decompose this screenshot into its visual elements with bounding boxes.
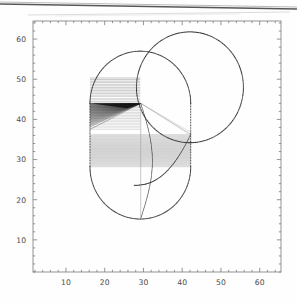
x-axis-tick-labels: 102030405060 (61, 278, 265, 287)
y-tick-label: 20 (16, 196, 26, 205)
big-circle (136, 31, 244, 143)
figure-content (89, 31, 244, 219)
curve-outlines (89, 31, 244, 219)
x-tick-label: 10 (61, 278, 71, 287)
upper-fan-lines (90, 103, 141, 129)
x-tick-label: 40 (177, 278, 187, 287)
y-axis-tick-labels: 102030405060 (16, 35, 26, 245)
x-tick-label: 30 (139, 278, 149, 287)
y-tick-label: 30 (16, 155, 26, 164)
x-tick-label: 20 (100, 278, 110, 287)
x-tick-label: 50 (216, 278, 226, 287)
y-tick-label: 40 (16, 115, 26, 124)
figure-root: 102030405060 102030405060 (0, 0, 297, 304)
x-tick-label: 60 (255, 278, 265, 287)
y-tick-label: 50 (16, 75, 26, 84)
y-tick-label: 10 (16, 236, 26, 245)
y-tick-label: 60 (16, 35, 26, 44)
lower-band-hatch (90, 134, 191, 167)
scan-artifact-group (0, 2, 297, 16)
plot-canvas: 102030405060 102030405060 (0, 0, 297, 304)
